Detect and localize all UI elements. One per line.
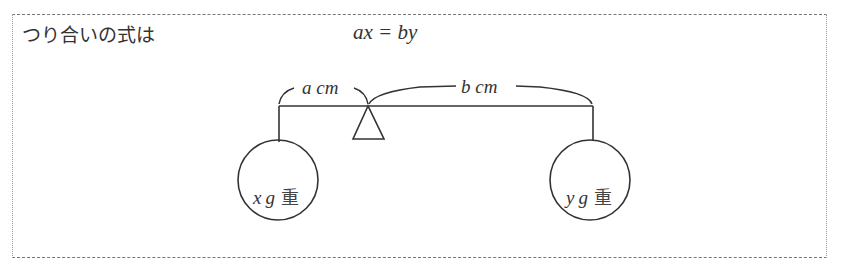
lever-diagram: a cm b cm xg重 yg重: [0, 0, 860, 274]
right-brace-end: [516, 86, 592, 104]
right-brace-start: [369, 86, 456, 104]
left-weight-circle: [238, 140, 318, 220]
left-arm-label: a cm: [302, 77, 338, 98]
right-weight-label: yg重: [564, 187, 612, 208]
left-brace-end: [354, 88, 368, 104]
fulcrum-triangle: [353, 106, 384, 139]
left-brace-start: [279, 88, 294, 104]
right-weight-circle: [550, 140, 630, 220]
right-arm-label: b cm: [461, 76, 497, 97]
left-weight-label: xg重: [252, 187, 299, 208]
